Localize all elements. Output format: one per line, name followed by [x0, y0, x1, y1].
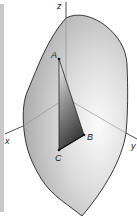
x-axis-outside — [5, 126, 23, 134]
point-a-label: A — [50, 50, 57, 60]
y-axis-outside — [126, 133, 137, 139]
point-b-label: B — [87, 132, 93, 142]
point-a — [58, 58, 61, 61]
z-axis-label: z — [56, 1, 62, 11]
y-axis-label: y — [130, 141, 136, 151]
point-c-label: C — [55, 153, 62, 163]
surface-diagram: z x y A B C — [0, 0, 137, 218]
point-c — [58, 149, 61, 152]
point-b — [83, 134, 86, 137]
x-axis-label: x — [4, 136, 10, 146]
